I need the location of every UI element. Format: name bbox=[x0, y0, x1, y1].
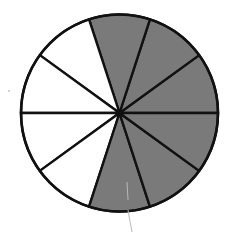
stray-dot bbox=[8, 90, 10, 92]
fraction-circle bbox=[0, 0, 231, 232]
